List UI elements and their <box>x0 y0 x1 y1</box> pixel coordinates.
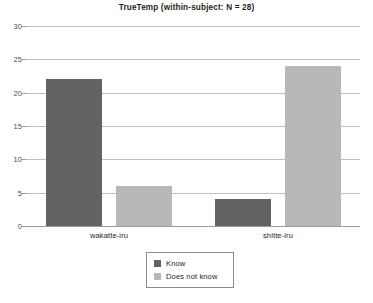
legend-swatch-icon <box>154 273 161 280</box>
y-axis-tick-label: 20 <box>13 88 22 97</box>
bar-shitte-iru-know <box>215 199 271 226</box>
y-axis-tick-mark <box>22 59 26 60</box>
chart-title: TrueTemp (within-subject: N = 28) <box>0 3 373 12</box>
y-axis-tick-mark <box>22 93 26 94</box>
legend-item[interactable]: Know <box>154 257 233 270</box>
x-axis-tick-label: wakatte-iru <box>90 231 128 240</box>
bar-chart: TrueTemp (within-subject: N = 28) 051015… <box>0 0 373 303</box>
y-axis-tick-mark <box>22 159 26 160</box>
plot-area <box>26 26 360 226</box>
axis-baseline <box>26 226 360 227</box>
y-axis-tick-label: 25 <box>13 55 22 64</box>
legend-item[interactable]: Does not know <box>154 270 233 283</box>
x-axis-tick-label: shitte-iru <box>263 231 293 240</box>
y-axis-tick-mark <box>22 26 26 27</box>
gridline <box>26 26 360 27</box>
y-axis-tick-mark <box>22 126 26 127</box>
legend-item-label: Does not know <box>166 272 218 281</box>
legend-swatch-icon <box>154 260 161 267</box>
gridline <box>26 59 360 60</box>
y-axis-tick-label: 15 <box>13 122 22 131</box>
y-axis-tick-mark <box>22 193 26 194</box>
bar-wakatte-iru-know <box>46 79 102 226</box>
bar-wakatte-iru-does-not-know <box>116 186 172 226</box>
y-axis: 051015202530 <box>0 26 22 226</box>
y-axis-tick-label: 10 <box>13 155 22 164</box>
x-axis: wakatte-irushitte-iru <box>26 231 360 245</box>
legend-item-label: Know <box>166 259 185 268</box>
chart-legend: KnowDoes not know <box>146 252 234 288</box>
bar-shitte-iru-does-not-know <box>285 66 341 226</box>
y-axis-tick-label: 30 <box>13 22 22 31</box>
y-axis-tick-mark <box>22 226 26 227</box>
